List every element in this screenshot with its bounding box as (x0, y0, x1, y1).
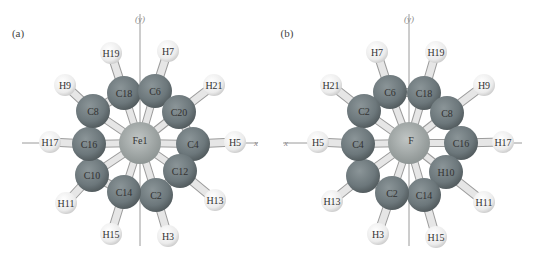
carbon-label: C4 (187, 139, 199, 150)
carbon-atom (346, 159, 380, 193)
hydrogen-label: H17 (494, 137, 511, 148)
carbon-label: C14 (116, 187, 133, 198)
hydrogen-label: H7 (371, 47, 383, 58)
hydrogen-label: H19 (102, 48, 119, 59)
y-axis-label: (y) (135, 14, 145, 24)
hydrogen-label: H21 (322, 80, 339, 91)
panel-a: (y)x(a)Fe1H19H7H21H5H13H3H15H11H17H9C18C… (12, 14, 258, 247)
panel-label: (a) (12, 27, 25, 40)
carbon-label: C6 (149, 86, 161, 97)
x-axis-label: x (283, 138, 288, 148)
hydrogen-label: H9 (59, 80, 71, 91)
carbon-label: C2 (358, 106, 370, 117)
hydrogen-label: H15 (102, 229, 119, 240)
hydrogen-label: H5 (312, 137, 324, 148)
hydrogen-label: H3 (162, 231, 174, 242)
carbon-label: C10 (84, 170, 101, 181)
carbon-label: C14 (416, 190, 433, 201)
carbon-label: C6 (384, 87, 396, 98)
carbon-label: C2 (150, 190, 162, 201)
carbon-label: C2 (386, 188, 398, 199)
carbon-label: C8 (87, 106, 99, 117)
carbon-label: C20 (171, 107, 188, 118)
hydrogen-label: H5 (229, 137, 241, 148)
carbon-label: C4 (352, 139, 364, 150)
hydrogen-label: H11 (58, 198, 75, 209)
ferrocene-diagram: (y)x(a)Fe1H19H7H21H5H13H3H15H11H17H9C18C… (0, 0, 535, 263)
carbon-label: C18 (416, 88, 433, 99)
carbon-label: C12 (172, 166, 189, 177)
y-axis-label: (y) (404, 14, 414, 24)
iron-atom-label: Fe1 (133, 135, 148, 146)
carbon-label: C8 (441, 108, 453, 119)
x-axis-label: x (253, 138, 258, 148)
hydrogen-label: H9 (478, 80, 490, 91)
hydrogen-label: H15 (427, 232, 444, 243)
iron-atom-label: F (408, 135, 414, 146)
hydrogen-label: H19 (427, 47, 444, 58)
carbon-label: C16 (453, 138, 470, 149)
hydrogen-label: H17 (41, 137, 58, 148)
hydrogen-label: H13 (323, 196, 340, 207)
panel-b: (y)x(b)FH7H19H9H17H11H15H3H13H5H21C6C18C… (281, 14, 522, 248)
carbon-label: H10 (437, 167, 454, 178)
carbon-label: C18 (116, 88, 133, 99)
hydrogen-label: H13 (206, 195, 223, 206)
hydrogen-label: H7 (162, 46, 174, 57)
carbon-label: C16 (81, 139, 98, 150)
hydrogen-label: H3 (372, 229, 384, 240)
panel-label: (b) (281, 27, 294, 40)
hydrogen-label: H11 (476, 197, 493, 208)
hydrogen-label: H21 (205, 80, 222, 91)
